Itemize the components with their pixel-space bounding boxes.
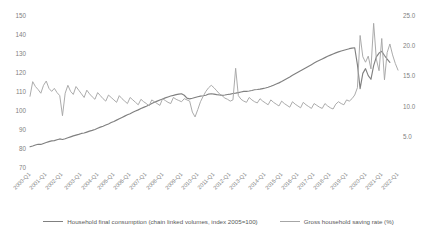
legend-swatch-icon bbox=[280, 221, 300, 222]
y-axis-right-tick: 5.0 bbox=[403, 134, 412, 140]
chart-legend: Household final consumption (chain linke… bbox=[0, 214, 437, 230]
y-axis-right-tick: 15.0 bbox=[403, 73, 415, 79]
legend-label: Household final consumption (chain linke… bbox=[67, 219, 257, 225]
y-axis-right-tick: 20.0 bbox=[403, 43, 415, 49]
y-axis-left-tick: 80 bbox=[0, 146, 26, 152]
y-axis-left-tick: 110 bbox=[0, 89, 26, 95]
series-line bbox=[30, 23, 398, 117]
y-axis-left-tick: 100 bbox=[0, 108, 26, 114]
legend-item[interactable]: Household final consumption (chain linke… bbox=[43, 219, 257, 225]
plot-area bbox=[30, 16, 398, 168]
y-axis-left-tick: 130 bbox=[0, 51, 26, 57]
y-axis-left-tick: 120 bbox=[0, 70, 26, 76]
legend-label: Gross household saving rate (%) bbox=[304, 219, 394, 225]
series-lines bbox=[30, 16, 398, 168]
legend-item[interactable]: Gross household saving rate (%) bbox=[280, 219, 394, 225]
legend-swatch-icon bbox=[43, 221, 63, 222]
y-axis-left-tick: 90 bbox=[0, 127, 26, 133]
y-axis-right-tick: 25.0 bbox=[403, 13, 415, 19]
y-axis-left-tick: 150 bbox=[0, 13, 26, 19]
y-axis-right-tick: 10.0 bbox=[403, 104, 415, 110]
y-axis-left-tick: 140 bbox=[0, 32, 26, 38]
y-axis-left-tick: 70 bbox=[0, 165, 26, 171]
chart-container: 708090100110120130140150 5.010.015.020.0… bbox=[0, 0, 437, 235]
